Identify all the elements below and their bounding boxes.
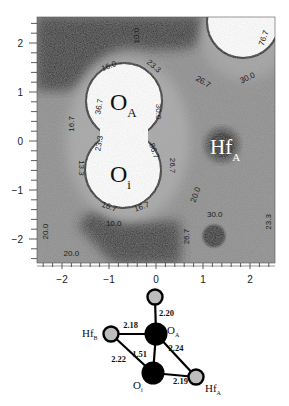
x-tick-label: −1 (103, 274, 115, 285)
dark-spot (203, 225, 225, 247)
y-axis: 210−1−2 (12, 23, 37, 258)
x-tick-label: 0 (153, 274, 159, 285)
atom-label-Oi: Oi (133, 379, 143, 393)
y-tick-label: −1 (12, 185, 24, 196)
atom-label-OA: OA (167, 324, 180, 338)
bond-length-label: 2.20 (159, 308, 174, 318)
bond-length-label: 2.18 (123, 320, 138, 330)
contour-label: 16.7 (67, 116, 76, 132)
contour-label: 20.0 (64, 249, 80, 258)
atom-Oi (142, 362, 165, 385)
atom-OA (145, 323, 168, 346)
y-tick-label: 1 (17, 87, 23, 98)
atom-HfA (189, 370, 204, 385)
x-tick-label: 1 (200, 274, 206, 285)
atom-top (148, 290, 163, 305)
x-tick-label: −2 (56, 274, 68, 285)
x-axis: −2−1012 (37, 263, 275, 285)
contour-label: 26.7 (182, 228, 191, 244)
y-tick-label: 2 (17, 38, 23, 49)
figure: OA Oi HfA 10.016.023.326.730.076.730.036… (0, 0, 289, 406)
y-tick-label: −2 (12, 234, 24, 245)
x-tick-label: 2 (247, 274, 253, 285)
contour-label: 10.0 (132, 27, 141, 43)
bond-length-label: 1.51 (132, 349, 147, 359)
atom-blob-waist (100, 110, 148, 160)
contour-label: 30.0 (154, 104, 163, 120)
contour-label: 20.0 (41, 223, 50, 239)
bond-length-label: 2.22 (111, 354, 126, 364)
bond-length-label: 2.24 (169, 343, 185, 353)
atom-label-HfA: HfA (205, 382, 222, 396)
contour-label: 30.0 (207, 210, 223, 219)
molecule-diagram: 2.202.182.241.512.222.19OAHfBOiHfA (82, 290, 222, 397)
contour-label: 10.0 (106, 219, 122, 228)
y-tick-label: 0 (17, 136, 23, 147)
bond-length-label: 2.19 (173, 376, 188, 386)
contour-label: 26.7 (168, 158, 177, 174)
atom-HfB (104, 327, 119, 342)
contour-label: 13.3 (77, 160, 86, 176)
contour-label: 23.3 (264, 214, 273, 230)
atom-label-HfB: HfB (82, 327, 98, 341)
